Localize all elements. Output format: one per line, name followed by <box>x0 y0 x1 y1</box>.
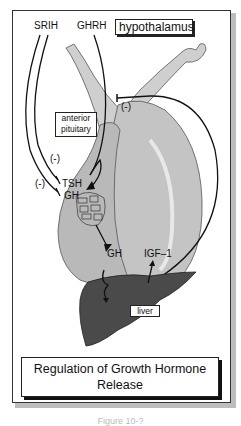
figure-caption: Figure 10-? <box>0 416 241 426</box>
tsh-label: TSH <box>62 178 82 189</box>
anterior-label-line1: anterior <box>56 113 96 124</box>
hypothalamus-label: hypothalamus <box>115 19 193 35</box>
anterior-pituitary-label: anterior pituitary <box>55 112 97 137</box>
liver-label: liver <box>130 305 160 317</box>
inhibit-label-top: (-) <box>121 101 131 112</box>
gh-output-label: GH <box>107 248 122 259</box>
srih-label: SRIH <box>34 20 58 31</box>
inhibit-label-left: (-) <box>35 178 45 189</box>
gh-pituitary-label: GH <box>64 190 79 201</box>
figure-title: Regulation of Growth Hormone Release <box>21 357 219 397</box>
anterior-label-line2: pituitary <box>56 124 96 135</box>
igf1-label: IGF–1 <box>144 248 172 259</box>
inhibit-label-mid: (-) <box>50 153 60 164</box>
ghrh-label: GHRH <box>77 20 106 31</box>
